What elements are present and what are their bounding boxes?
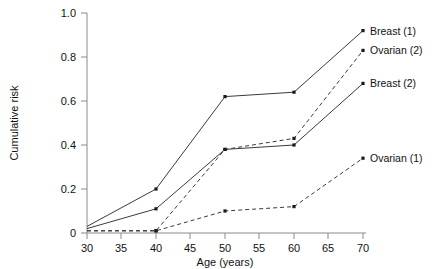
series-layer — [87, 29, 365, 232]
x-tick-label: 65 — [322, 242, 334, 254]
x-tick-label: 60 — [288, 242, 300, 254]
x-tick-label: 35 — [115, 242, 127, 254]
y-tick-label: 0.6 — [61, 95, 76, 107]
y-tick-label: 1.0 — [61, 7, 76, 19]
data-point-marker — [361, 157, 364, 160]
data-point-marker — [154, 187, 157, 190]
x-axis-tick-labels: 30 35 40 45 50 55 60 65 70 — [81, 242, 369, 254]
series-line-breast-2 — [87, 83, 363, 228]
y-axis-ticks — [81, 13, 87, 233]
x-tick-label: 50 — [219, 242, 231, 254]
x-axis-title: Age (years) — [197, 256, 254, 268]
x-axis-ticks — [87, 233, 363, 239]
series-label-breast-1: Breast (1) — [370, 25, 416, 37]
x-tick-label: 30 — [81, 242, 93, 254]
data-point-marker — [292, 143, 295, 146]
series-line-breast-1 — [87, 31, 363, 227]
cumulative-risk-chart: 1.0 0.8 0.6 0.4 0.2 0 30 35 40 45 50 55 — [0, 0, 437, 269]
data-point-marker — [154, 207, 157, 210]
series-label-layer: Breast (1)Ovarian (2)Breast (2)Ovarian (… — [370, 25, 423, 165]
data-point-marker — [223, 209, 226, 212]
data-point-marker — [292, 205, 295, 208]
y-tick-label: 0.2 — [61, 183, 76, 195]
y-tick-label: 0 — [70, 227, 76, 239]
series-label-ovarian-2: Ovarian (2) — [370, 44, 423, 56]
series-line-ovarian-1 — [87, 158, 363, 231]
data-point-marker — [361, 49, 364, 52]
y-axis-tick-labels: 1.0 0.8 0.6 0.4 0.2 0 — [61, 7, 76, 239]
x-tick-label: 55 — [253, 242, 265, 254]
x-tick-label: 45 — [184, 242, 196, 254]
chart-canvas: 1.0 0.8 0.6 0.4 0.2 0 30 35 40 45 50 55 — [0, 0, 437, 269]
y-tick-label: 0.4 — [61, 139, 76, 151]
data-point-marker — [361, 82, 364, 85]
data-point-marker — [292, 91, 295, 94]
data-point-marker — [223, 148, 226, 151]
series-label-ovarian-1: Ovarian (1) — [370, 152, 423, 164]
data-point-marker — [154, 229, 157, 232]
x-tick-label: 40 — [150, 242, 162, 254]
data-point-marker — [292, 137, 295, 140]
y-axis-title: Cumulative risk — [8, 85, 20, 161]
y-tick-label: 0.8 — [61, 51, 76, 63]
x-tick-label: 70 — [357, 242, 369, 254]
data-point-marker — [361, 29, 364, 32]
data-point-marker — [223, 95, 226, 98]
series-label-breast-2: Breast (2) — [370, 77, 416, 89]
